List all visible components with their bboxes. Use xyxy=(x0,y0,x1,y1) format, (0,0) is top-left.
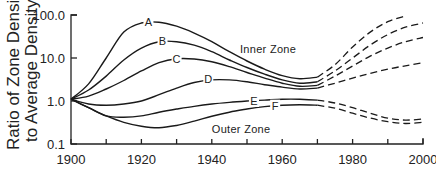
y-axis-title-line-1: Ratio of Zone Density xyxy=(4,0,23,150)
inner-zone-label: Inner Zone xyxy=(240,43,296,55)
x-tick-label: 1940 xyxy=(197,152,226,167)
projection-d xyxy=(317,63,423,89)
y-tick-label: 10.0 xyxy=(40,51,65,66)
series-group xyxy=(71,16,423,128)
curve-label-c: C xyxy=(173,53,181,65)
projection-f xyxy=(317,105,423,123)
curve-label-e: E xyxy=(250,95,257,107)
y-tick-label: 100.0 xyxy=(32,8,65,23)
projection-e xyxy=(317,100,423,120)
outer-zone-label: Outer Zone xyxy=(212,123,271,135)
x-tick-label: 1980 xyxy=(338,152,367,167)
curve-e xyxy=(71,99,317,117)
curve-label-a: A xyxy=(145,16,153,28)
y-tick-label: 1.0 xyxy=(47,94,65,109)
curve-label-f: F xyxy=(272,100,279,112)
curve-labels: ABCDEF xyxy=(143,16,280,111)
projection-c xyxy=(317,38,423,86)
x-tick-label: 1920 xyxy=(127,152,156,167)
x-tick-label: 1900 xyxy=(57,152,86,167)
density-ratio-chart: Ratio of Zone Density to Average Density… xyxy=(0,0,436,170)
curve-label-d: D xyxy=(204,73,212,85)
x-tick-label: 2000 xyxy=(409,152,436,167)
x-tick-label: 1960 xyxy=(268,152,297,167)
curve-label-b: B xyxy=(159,35,166,47)
curve-f xyxy=(71,99,317,128)
y-tick-label: 0.1 xyxy=(47,137,65,152)
